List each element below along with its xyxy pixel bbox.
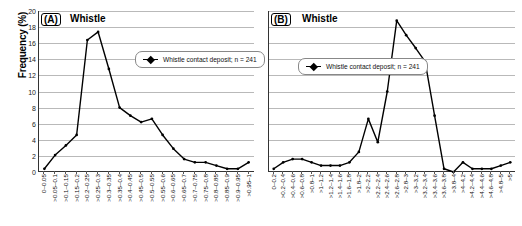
panel-a-legend: Whistle contact deposit; n = 241 — [135, 51, 265, 68]
data-series-line — [269, 11, 515, 172]
data-point — [310, 161, 313, 164]
x-tick-label: >4.6–4.8 — [487, 174, 494, 198]
data-point — [226, 167, 229, 170]
panel-b: (B) Whistle Whistle contact deposit; n =… — [268, 11, 515, 172]
data-point — [301, 158, 304, 161]
data-point — [129, 114, 132, 117]
x-tick-label: >3.6–3.8 — [440, 174, 447, 198]
data-point — [161, 134, 164, 137]
data-point — [433, 114, 436, 117]
panel-a-title: Whistle — [70, 13, 106, 25]
panel-a-plot-area — [38, 11, 254, 172]
data-point — [490, 167, 493, 170]
data-point — [237, 167, 240, 170]
x-tick-label: >3–3.2 — [411, 174, 418, 193]
x-tick-label: >0.25–0.3 — [94, 174, 101, 202]
x-tick-label: >0.5–0.55 — [147, 174, 154, 202]
data-series-line — [39, 11, 254, 172]
x-tick-label: >0.75–0.8 — [201, 174, 208, 202]
x-tick-label: 0–0.2 — [269, 174, 276, 189]
x-tick-label: >1.4–1.6 — [335, 174, 342, 198]
x-tick-label: >0.45–0.5 — [137, 174, 144, 202]
panel-b-legend: Whistle contact deposit; n = 241 — [298, 58, 428, 75]
x-tick-label: >0.9–0.95 — [233, 174, 240, 202]
data-point — [140, 121, 143, 124]
x-tick-label: >2.6–2.8 — [392, 174, 399, 198]
data-point — [320, 164, 323, 167]
y-tick-label: 0 — [14, 169, 36, 176]
figure-container: Frequency (%) 02468101214161820 (A) Whis… — [0, 0, 522, 226]
x-tick-label: >2–2.2 — [364, 174, 371, 193]
data-point — [367, 118, 370, 121]
x-tick-label: >0.55–0.6 — [158, 174, 165, 202]
panel-a-label: (A) — [41, 13, 61, 26]
data-point — [329, 164, 332, 167]
y-tick-label: 14 — [14, 56, 36, 63]
x-tick-label: >1.2–1.4 — [326, 174, 333, 198]
x-tick-label: >0.15–0.2 — [72, 174, 79, 202]
data-point — [86, 39, 89, 42]
x-tick-label: >5 — [506, 174, 513, 181]
x-tick-label: >0.6–0.65 — [169, 174, 176, 202]
legend-marker-icon — [143, 56, 158, 63]
x-tick-label: >0.4–0.6 — [288, 174, 295, 198]
x-tick-label: >0.4–0.45 — [126, 174, 133, 202]
x-tick-label: >0.6–0.8 — [298, 174, 305, 198]
data-point — [215, 164, 218, 167]
data-point — [509, 161, 512, 164]
x-tick-label: >0.65–0.7 — [180, 174, 187, 202]
y-tick-label: 16 — [14, 40, 36, 47]
x-tick-label: >2.8–3 — [402, 174, 409, 193]
x-tick-label: >0.35–0.4 — [115, 174, 122, 202]
y-tick-label: 20 — [14, 8, 36, 15]
x-tick-label: >0.95–1 — [244, 174, 251, 197]
data-point — [108, 68, 111, 71]
x-tick-label: >3.8–4 — [449, 174, 456, 193]
x-tick-label: >4–4.2 — [458, 174, 465, 193]
data-point — [499, 164, 502, 167]
data-point — [358, 151, 361, 154]
panel-b-x-axis-labels: 0–0.2>0.2–0.4>0.4–0.6>0.6–0.8>0.8–1>1–1.… — [268, 174, 514, 226]
data-point — [151, 118, 154, 121]
x-tick-label: >0.85–0.9 — [223, 174, 230, 202]
x-tick-label: >3.2–3.4 — [421, 174, 428, 198]
x-tick-label: >4.2–4.4 — [468, 174, 475, 198]
x-tick-label: >2.2–2.4 — [373, 174, 380, 198]
data-point — [282, 161, 285, 164]
y-tick-label: 4 — [14, 136, 36, 143]
data-point — [462, 161, 465, 164]
x-tick-label: >4.4–4.6 — [477, 174, 484, 198]
data-point — [395, 19, 398, 22]
x-tick-label: >2.4–2.6 — [383, 174, 390, 198]
legend-marker-icon — [306, 63, 321, 70]
x-tick-label: >0.1–0.15 — [61, 174, 68, 202]
data-point — [471, 167, 474, 170]
data-point — [348, 161, 351, 164]
data-point — [376, 141, 379, 144]
data-point — [194, 161, 197, 164]
y-tick-label: 2 — [14, 152, 36, 159]
data-point — [386, 90, 389, 93]
data-point — [75, 134, 78, 137]
x-tick-label: >1–1.2 — [317, 174, 324, 193]
data-point — [183, 158, 186, 161]
x-tick-label: >4.8–5 — [496, 174, 503, 193]
data-point — [291, 158, 294, 161]
panel-b-title: Whistle — [302, 13, 338, 25]
data-point — [339, 164, 342, 167]
y-tick-label: 6 — [14, 120, 36, 127]
data-point — [272, 167, 275, 170]
x-tick-label: >0.8–1 — [307, 174, 314, 193]
y-tick-label: 8 — [14, 104, 36, 111]
panel-a-x-axis-labels: 0–0.05>0.05–0.1>0.1–0.15>0.15–0.2>0.2–0.… — [38, 174, 253, 226]
x-tick-label: >0.2–0.4 — [279, 174, 286, 198]
data-point — [65, 144, 68, 147]
x-tick-label: >0.05–0.1 — [51, 174, 58, 202]
panel-b-plot-area — [268, 11, 515, 172]
data-point — [118, 106, 121, 109]
data-point — [54, 154, 57, 157]
panel-a: (A) Whistle Whistle contact deposit; n =… — [38, 11, 254, 172]
x-tick-label: >3.4–3.6 — [430, 174, 437, 198]
data-point — [443, 167, 446, 170]
x-tick-label: >0.2–0.25 — [83, 174, 90, 202]
